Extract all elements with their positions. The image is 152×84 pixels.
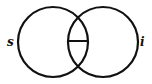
venn-diagram <box>0 0 152 84</box>
left-set-label: s <box>7 36 14 48</box>
right-set-label: i <box>140 36 145 48</box>
